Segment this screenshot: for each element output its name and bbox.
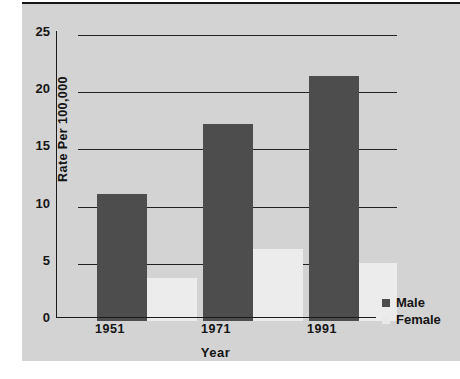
gridline-25 — [78, 35, 397, 36]
y-axis-title: Rate Per 100,000 — [56, 44, 70, 214]
legend-label-male: Male — [396, 295, 425, 310]
y-tick-label-5: 5 — [8, 253, 50, 268]
y-tick-label-10: 10 — [8, 196, 50, 211]
legend-item-male[interactable]: Male — [382, 294, 456, 311]
chart-page: Rate Per 100,000 25 20 15 10 5 0 1951 19… — [0, 0, 460, 379]
bar-male-1971[interactable] — [203, 124, 253, 321]
bar-female-1951[interactable] — [147, 278, 197, 321]
x-tick-label-1971: 1971 — [171, 322, 261, 336]
legend-label-female: Female — [396, 312, 441, 327]
x-axis-title: Year — [56, 345, 375, 360]
y-tick-label-0: 0 — [8, 310, 50, 325]
y-tick-label-25: 25 — [8, 24, 50, 39]
legend-item-female[interactable]: Female — [382, 311, 456, 328]
x-tick-label-1951: 1951 — [65, 322, 155, 336]
plot-area — [78, 35, 397, 321]
male-swatch-icon — [382, 299, 390, 307]
bar-female-1971[interactable] — [253, 249, 303, 321]
y-tick-label-15: 15 — [8, 138, 50, 153]
x-axis-line — [56, 317, 376, 318]
x-tick-label-1991: 1991 — [277, 322, 367, 336]
chart-legend: Male Female — [382, 294, 456, 328]
y-tick-label-20: 20 — [8, 81, 50, 96]
female-swatch-icon — [382, 316, 390, 324]
bar-male-1951[interactable] — [97, 194, 147, 321]
bar-male-1991[interactable] — [309, 76, 359, 321]
y-axis-line — [56, 31, 57, 318]
